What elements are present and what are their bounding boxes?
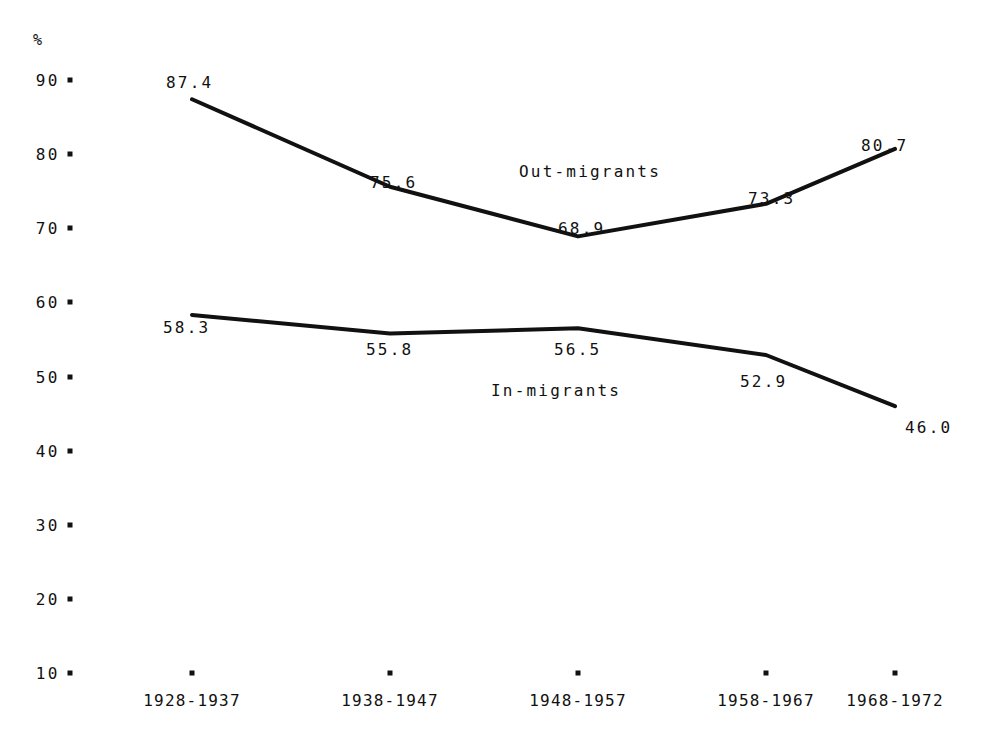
line-chart: % 908070605040302010 1928-19371938-19471… bbox=[0, 0, 1001, 740]
data-point-value-label: 46.0 bbox=[905, 418, 952, 437]
data-point-value-label: 52.9 bbox=[740, 372, 787, 391]
data-point-value-label: 75.6 bbox=[370, 173, 417, 192]
data-point-value-label: 73.3 bbox=[748, 189, 795, 208]
data-point-value-label: 80.7 bbox=[861, 136, 908, 155]
chart-root: % 908070605040302010 1928-19371938-19471… bbox=[0, 0, 1001, 740]
series-annotation-in-migrants: In-migrants bbox=[491, 381, 621, 400]
series-annotation-out-migrants: Out-migrants bbox=[519, 162, 661, 181]
data-point-value-label: 58.3 bbox=[163, 318, 210, 337]
data-point-value-label: 87.4 bbox=[166, 73, 213, 92]
plot-lines bbox=[0, 0, 1001, 740]
data-point-value-label: 56.5 bbox=[554, 340, 601, 359]
data-point-value-label: 68.9 bbox=[558, 219, 605, 238]
data-point-value-label: 55.8 bbox=[366, 340, 413, 359]
